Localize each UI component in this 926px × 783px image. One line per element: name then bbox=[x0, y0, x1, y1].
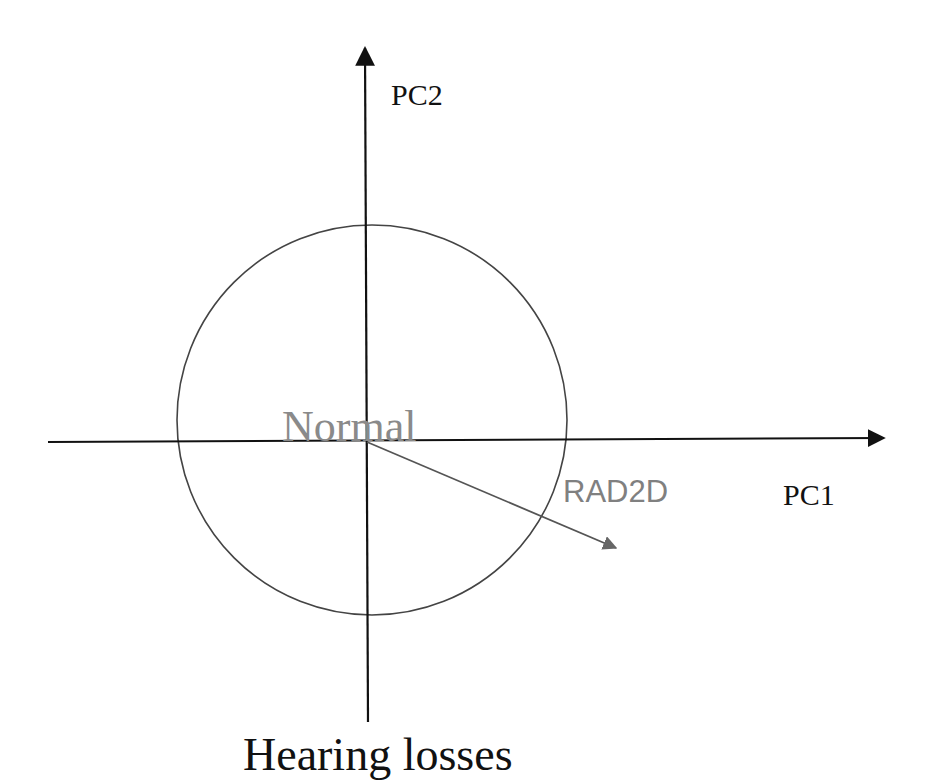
caption-hearing-losses: Hearing losses bbox=[243, 729, 513, 780]
pca-diagram: Normal RAD2D PC1 PC2 Hearing losses bbox=[0, 0, 926, 783]
vector-label-rad2d: RAD2D bbox=[563, 474, 668, 509]
region-label-normal: Normal bbox=[282, 402, 416, 451]
pc1-axis bbox=[48, 438, 884, 442]
axis-label-pc1: PC1 bbox=[783, 478, 835, 511]
axis-label-pc2: PC2 bbox=[391, 78, 443, 111]
pc2-axis bbox=[365, 48, 368, 722]
